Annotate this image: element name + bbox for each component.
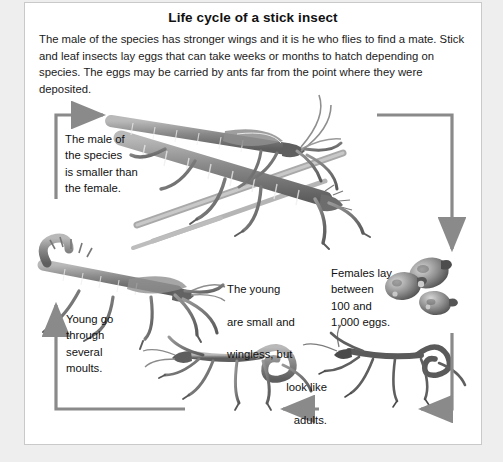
label-young-line-1: The young (227, 281, 327, 297)
page-title: Life cycle of a stick insect (25, 10, 481, 25)
arrow-bottom-right (421, 333, 452, 409)
label-young-line-5: adults. (227, 412, 327, 428)
label-young-line-2: are small and (227, 314, 327, 330)
life-cycle-panel: Life cycle of a stick insect The male of… (24, 2, 482, 445)
intro-paragraph: The male of the species has stronger win… (39, 31, 471, 97)
label-young-line-4: look like (227, 379, 327, 395)
arrow-top-right (377, 115, 452, 249)
label-young-go-through-moults: Young go through several moults. (66, 311, 156, 376)
page-root: Life cycle of a stick insect The male of… (0, 0, 503, 462)
label-male-smaller-than-female: The male of the species is smaller than … (65, 131, 165, 196)
label-young-line-3: wingless, but (227, 346, 327, 362)
figure-nymph-right (303, 325, 465, 407)
label-females-lay-eggs: Females lay between 100 and 1,000 eggs. (331, 265, 421, 330)
label-young-small-wingless: The young are small and wingless, but lo… (227, 265, 327, 444)
